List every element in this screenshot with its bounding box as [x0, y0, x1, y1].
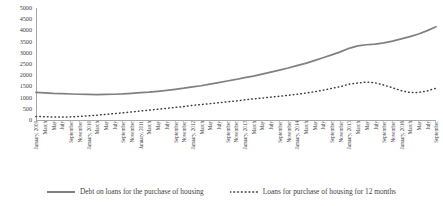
x-axis-tick-label: May — [104, 121, 109, 130]
x-axis-tick-label: May — [52, 121, 57, 130]
line-chart: 0500100015002000250030003500400045005000… — [0, 0, 443, 206]
y-axis-tick-label: 0 — [29, 117, 32, 123]
x-axis-tick-label: November — [391, 121, 396, 143]
x-axis-tick-label: January, 2014 — [295, 121, 300, 149]
series-paths — [36, 8, 436, 120]
x-axis-tick-label: September — [330, 121, 335, 143]
x-axis-tick-label: September — [434, 121, 439, 143]
x-axis-tick-label: September — [226, 121, 231, 143]
x-axis-tick-label: March — [252, 121, 257, 134]
x-axis-tick-label: January, 2009 — [34, 121, 39, 149]
x-axis-tick-label: March — [43, 121, 48, 134]
x-axis-tick-label: November — [182, 121, 187, 143]
x-axis-tick-label: July — [321, 121, 326, 130]
x-axis-tick-label: July — [113, 121, 118, 130]
x-axis-tick-label: November — [130, 121, 135, 143]
y-axis-tick-label: 2500 — [20, 61, 32, 67]
x-axis-tick-label: November — [234, 121, 239, 143]
x-axis-tick-label: May — [417, 121, 422, 130]
legend-item[interactable]: Loans for purchase of housing for 12 mon… — [230, 188, 396, 196]
x-axis: January, 2009MarchMayJulySeptemberNovemb… — [36, 121, 436, 171]
x-axis-tick-label: March — [408, 121, 413, 134]
dotted-line-swatch — [230, 188, 258, 196]
x-axis-tick-label: May — [313, 121, 318, 130]
x-axis-tick-label: July — [426, 121, 431, 130]
x-axis-tick-label: November — [287, 121, 292, 143]
x-axis-tick-label: May — [365, 121, 370, 130]
x-axis-tick-label: March — [147, 121, 152, 134]
y-axis-tick-label: 2000 — [20, 72, 32, 78]
solid-line-swatch — [47, 188, 75, 196]
series-line-1 — [36, 82, 436, 117]
x-axis-tick-label: September — [121, 121, 126, 143]
x-axis-tick-label: May — [208, 121, 213, 130]
x-axis-tick-label: March — [304, 121, 309, 134]
legend-item[interactable]: Debt on loans for the purchase of housin… — [47, 188, 204, 196]
y-axis-tick-label: 4000 — [20, 27, 32, 33]
x-axis-tick-label: September — [174, 121, 179, 143]
y-axis-tick-label: 4500 — [20, 16, 32, 22]
x-axis-tick-label: March — [356, 121, 361, 134]
x-axis-tick-label: January, 2010 — [87, 121, 92, 149]
y-axis-tick-label: 3500 — [20, 39, 32, 45]
x-axis-tick-label: March — [95, 121, 100, 134]
y-axis-tick-label: 3000 — [20, 50, 32, 56]
x-axis-tick-label: January, 2011 — [139, 121, 144, 149]
x-axis-tick-label: November — [339, 121, 344, 143]
x-axis-tick-label: September — [382, 121, 387, 143]
y-axis-tick-label: 1000 — [20, 95, 32, 101]
x-axis-tick-label: September — [69, 121, 74, 143]
plot-area — [36, 8, 436, 120]
x-axis-tick-label: July — [374, 121, 379, 130]
legend-item-label: Loans for purchase of housing for 12 mon… — [263, 188, 396, 196]
chart-legend: Debt on loans for the purchase of housin… — [0, 182, 443, 202]
x-axis-tick-label: January, 2012 — [191, 121, 196, 149]
x-axis-tick-label: May — [156, 121, 161, 130]
y-axis-tick-label: 1500 — [20, 83, 32, 89]
x-axis-tick-label: January, 2016 — [400, 121, 405, 149]
x-axis-tick-label: July — [217, 121, 222, 130]
x-axis-tick-label: July — [60, 121, 65, 130]
x-axis-tick-label: July — [269, 121, 274, 130]
legend-item-label: Debt on loans for the purchase of housin… — [80, 188, 204, 196]
x-axis-tick-label: January, 2013 — [243, 121, 248, 149]
x-axis-tick-label: September — [278, 121, 283, 143]
x-axis-tick-label: March — [200, 121, 205, 134]
x-axis-tick-label: November — [78, 121, 83, 143]
y-axis: 0500100015002000250030003500400045005000 — [0, 0, 34, 128]
x-axis-tick-label: January, 2015 — [347, 121, 352, 149]
x-axis-tick-label: May — [260, 121, 265, 130]
series-line-0 — [36, 27, 436, 95]
y-axis-tick-label: 5000 — [20, 5, 32, 11]
y-axis-tick-label: 500 — [23, 106, 32, 112]
x-axis-tick-label: July — [165, 121, 170, 130]
